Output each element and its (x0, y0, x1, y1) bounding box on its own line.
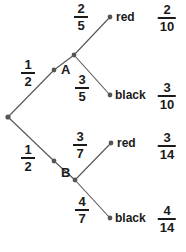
numerator: 2 (75, 2, 86, 16)
numerator: 1 (22, 58, 33, 72)
probability-a-black: 3 5 (75, 73, 89, 103)
probability-b-black: 4 7 (75, 195, 89, 225)
numerator: 2 (161, 3, 172, 17)
denominator: 10 (158, 19, 176, 33)
probability-tree-diagram: A B 1 2 1 2 2 5 3 5 3 7 4 7 red black re… (0, 0, 186, 252)
node-a-dot (52, 68, 57, 73)
denominator: 14 (158, 147, 176, 161)
node-a-label: A (61, 63, 70, 76)
outcome-a-black-label: black (115, 89, 146, 101)
root-node-dot (5, 114, 10, 119)
node-b-dot (52, 159, 57, 164)
leaf-b-red-dot (109, 141, 114, 146)
outcome-b-red-label: red (117, 137, 136, 149)
numerator: 4 (161, 204, 172, 218)
numerator: 3 (74, 130, 85, 144)
denominator: 5 (76, 89, 87, 103)
outcome-b-black-label: black (115, 212, 146, 224)
probability-b-red: 3 7 (73, 130, 87, 160)
numerator: 3 (76, 73, 87, 87)
vertex-a-dot (72, 53, 77, 58)
denominator: 10 (158, 97, 176, 111)
denominator: 5 (75, 18, 86, 32)
joint-probability-b-black: 4 14 (158, 204, 176, 234)
outcome-a-red-label: red (116, 11, 135, 23)
numerator: 4 (76, 195, 87, 209)
leaf-b-black-dot (108, 216, 113, 221)
joint-probability-b-red: 3 14 (158, 131, 176, 161)
joint-probability-a-red: 2 10 (158, 3, 176, 33)
vertex-b-dot (73, 178, 78, 183)
denominator: 7 (74, 146, 85, 160)
probability-a-red: 2 5 (74, 2, 88, 32)
leaf-a-red-dot (108, 15, 113, 20)
numerator: 3 (161, 81, 172, 95)
leaf-a-black-dot (108, 93, 113, 98)
denominator: 2 (22, 159, 33, 173)
denominator: 14 (158, 220, 176, 234)
probability-node-b: 1 2 (21, 143, 35, 173)
denominator: 2 (22, 74, 33, 88)
numerator: 1 (22, 143, 33, 157)
denominator: 7 (76, 211, 87, 225)
node-b-label: B (61, 166, 70, 179)
joint-probability-a-black: 3 10 (158, 81, 176, 111)
branch-lines (8, 17, 111, 218)
branch-nodes (5, 15, 113, 221)
probability-node-a: 1 2 (21, 58, 35, 88)
numerator: 3 (161, 131, 172, 145)
